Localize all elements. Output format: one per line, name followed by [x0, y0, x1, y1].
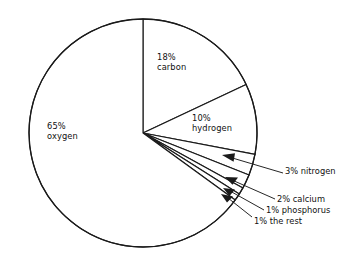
- pie-chart-figure: 65% oxygen 18% carbon 10% hydrogen 3% ni…: [0, 0, 359, 261]
- slice-label-oxygen: 65% oxygen: [47, 121, 78, 141]
- slice-label-hydrogen: 10% hydrogen: [192, 113, 232, 133]
- callout-label-phosphorus: 1% phosphorus: [266, 205, 330, 215]
- callout-label-nitrogen: 3% nitrogen: [285, 166, 336, 176]
- slice-label-hydrogen-percent: 10%: [192, 113, 232, 123]
- slice-label-carbon-name: carbon: [157, 62, 186, 72]
- callout-label-calcium: 2% calcium: [277, 194, 325, 204]
- slice-label-carbon: 18% carbon: [157, 52, 186, 72]
- slice-label-oxygen-percent: 65%: [47, 121, 78, 131]
- slice-label-oxygen-name: oxygen: [47, 131, 78, 141]
- slice-label-hydrogen-name: hydrogen: [192, 123, 232, 133]
- slice-label-carbon-percent: 18%: [157, 52, 186, 62]
- callout-label-the-rest: 1% the rest: [254, 216, 302, 226]
